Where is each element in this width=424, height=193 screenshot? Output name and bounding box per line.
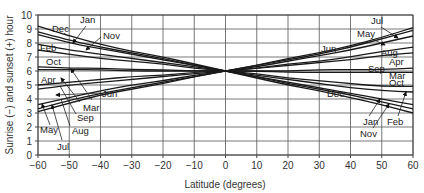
label-north-apr: Apr — [389, 56, 404, 67]
x-tick-label: 0 — [223, 160, 229, 171]
sunrise-sunset-chart: −60−50−40−30−20−100102030405060012345678… — [0, 0, 424, 193]
y-tick-label: 6 — [26, 66, 32, 77]
x-tick-label: −20 — [155, 160, 172, 171]
x-tick-label: −40 — [92, 160, 109, 171]
label-north-jan: Jan — [363, 116, 378, 127]
label-south-feb: Feb — [40, 42, 56, 53]
label-north-oct: Oct — [389, 77, 404, 88]
x-tick-label: −10 — [186, 160, 203, 171]
y-tick-label: 9 — [26, 24, 32, 35]
x-tick-label: −30 — [123, 160, 140, 171]
y-axis-title: Sunrise (−) and sunset (+) hour — [4, 15, 15, 155]
y-tick-label: 0 — [26, 150, 32, 161]
label-south-nov: Nov — [103, 30, 120, 41]
label-south-aug: Aug — [72, 125, 89, 136]
label-south-sep: Sep — [77, 112, 94, 123]
x-tick-label: 50 — [376, 160, 388, 171]
x-tick-label: 40 — [345, 160, 357, 171]
y-tick-label: 8 — [26, 38, 32, 49]
x-tick-label: 20 — [282, 160, 294, 171]
label-south-jun: Jun — [102, 88, 117, 99]
y-tick-label: 10 — [21, 10, 33, 21]
x-tick-label: 60 — [407, 160, 419, 171]
label-north-dec: Dec — [327, 88, 344, 99]
y-tick-label: 4 — [26, 94, 32, 105]
label-north-sep: Sep — [368, 63, 385, 74]
label-south-dec: Dec — [52, 23, 69, 34]
label-south-jan: Jan — [80, 14, 95, 25]
label-north-nov: Nov — [360, 128, 377, 139]
y-tick-label: 2 — [26, 122, 32, 133]
label-south-oct: Oct — [46, 56, 61, 67]
south-annotations: Dec Jan Nov Feb Oct Apr Mar Jun Sep May … — [40, 14, 120, 152]
label-south-apr: Apr — [41, 74, 56, 85]
label-north-jul: Jul — [371, 15, 383, 26]
x-tick-label: −60 — [30, 160, 47, 171]
x-tick-label: −50 — [61, 160, 78, 171]
x-tick-label: 30 — [314, 160, 326, 171]
y-tick-label: 5 — [26, 80, 32, 91]
y-tick-label: 3 — [26, 108, 32, 119]
label-south-may: May — [40, 124, 58, 135]
y-tick-label: 1 — [26, 136, 32, 147]
label-north-jun: Jun — [321, 43, 336, 54]
x-tick-label: 10 — [251, 160, 263, 171]
x-axis-title: Latitude (degrees) — [184, 179, 265, 190]
y-tick-label: 7 — [26, 52, 32, 63]
label-south-jul: Jul — [57, 141, 69, 152]
label-north-may: May — [357, 28, 375, 39]
label-north-feb: Feb — [387, 116, 403, 127]
